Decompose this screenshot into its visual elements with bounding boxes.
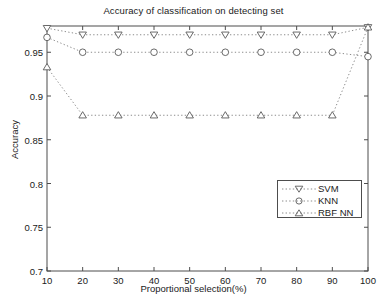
chart-figure: Accuracy of classification on detecting … bbox=[0, 0, 387, 303]
data-point-marker bbox=[79, 112, 87, 118]
legend-label-svm: SVM bbox=[318, 183, 339, 195]
data-point-marker bbox=[43, 64, 51, 70]
data-point-marker bbox=[186, 49, 193, 56]
legend-marker-circle-icon bbox=[282, 195, 316, 207]
data-point-marker bbox=[329, 49, 336, 56]
data-point-marker bbox=[258, 49, 265, 56]
data-point-marker bbox=[44, 34, 51, 41]
data-point-marker bbox=[293, 49, 300, 56]
legend-item-rbf-nn: RBF NN bbox=[278, 207, 361, 219]
data-point-marker bbox=[79, 49, 86, 56]
data-point-marker bbox=[43, 25, 51, 31]
legend-label-rbf-nn: RBF NN bbox=[318, 207, 353, 219]
data-point-marker bbox=[151, 49, 158, 56]
data-point-marker bbox=[115, 49, 122, 56]
plot-area bbox=[0, 0, 387, 303]
legend-label-knn: KNN bbox=[318, 195, 338, 207]
data-point-marker bbox=[329, 32, 337, 38]
legend: SVM KNN RBF NN bbox=[277, 180, 362, 218]
legend-marker-triangle-up-icon bbox=[282, 207, 316, 219]
legend-item-knn: KNN bbox=[278, 195, 361, 207]
data-point-marker bbox=[365, 53, 372, 60]
legend-marker-triangle-down-icon bbox=[282, 183, 316, 195]
legend-item-svm: SVM bbox=[278, 183, 361, 195]
data-point-marker bbox=[222, 49, 229, 56]
data-point-marker bbox=[79, 32, 87, 38]
data-point-marker bbox=[257, 112, 265, 118]
data-point-marker bbox=[222, 32, 230, 38]
